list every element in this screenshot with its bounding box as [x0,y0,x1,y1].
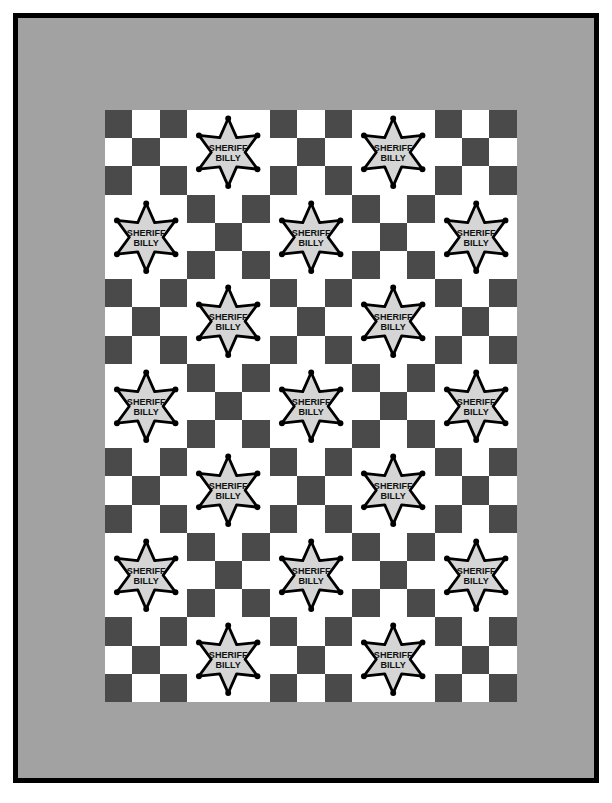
badge-point-dot-2 [172,217,178,223]
checker-patch-1-2 [325,307,352,335]
star-block: SHERIFFBILLY [105,533,187,618]
badge-point-dot-1 [390,454,396,460]
checker-patch-1-2 [407,561,434,589]
checker-block [352,364,434,449]
checker-patch-2-1 [380,589,407,617]
checker-patch-1-0 [435,307,462,335]
star-block: SHERIFFBILLY [187,110,269,195]
badge-text-line1: SHERIFF [127,396,166,406]
badge-point-dot-5 [361,674,367,680]
checker-patch-0-0 [352,195,379,223]
sheriff-badge-icon: SHERIFFBILLY [352,448,434,533]
checker-patch-0-0 [187,364,214,392]
checker-patch-0-2 [489,279,516,307]
badge-point-dot-4 [473,268,479,274]
checker-patch-0-0 [187,533,214,561]
badge-point-dot-3 [502,251,508,257]
sheriff-badge-icon: SHERIFFBILLY [435,195,517,280]
badge-point-dot-6 [196,302,202,308]
checker-patch-1-2 [160,646,187,674]
corner-block-top-right [512,18,594,100]
checker-block [435,110,517,195]
checker-patch-0-2 [325,448,352,476]
checker-patch-2-2 [242,420,269,448]
badge-point-dot-4 [473,437,479,443]
checker-patch-2-0 [435,336,462,364]
badge-text-line2: BILLY [381,491,406,501]
badge-point-dot-2 [337,386,343,392]
badge-point-dot-6 [114,386,120,392]
checker-patch-2-1 [215,251,242,279]
checker-patch-1-1 [297,138,324,166]
badge-point-dot-3 [420,166,426,172]
checker-patch-0-2 [160,448,187,476]
checker-patch-1-1 [380,561,407,589]
checker-patch-1-0 [270,307,297,335]
checker-patch-0-1 [297,617,324,645]
badge-point-dot-3 [420,504,426,510]
checker-patch-2-1 [462,674,489,702]
badge-text-line2: BILLY [216,322,241,332]
checker-patch-2-1 [215,589,242,617]
badge-point-dot-4 [143,606,149,612]
badge-point-dot-6 [279,555,285,561]
checker-patch-0-1 [215,195,242,223]
badge-point-dot-5 [444,420,450,426]
badge-point-dot-5 [444,251,450,257]
checker-patch-0-2 [489,110,516,138]
badge-text-line1: SHERIFF [209,650,248,660]
badge-text-line1: SHERIFF [374,143,413,153]
checker-patch-1-0 [435,476,462,504]
sheriff-badge-icon: SHERIFFBILLY [435,533,517,618]
badge-point-dot-2 [502,386,508,392]
badge-point-dot-6 [444,386,450,392]
checker-patch-1-0 [435,138,462,166]
badge-point-dot-5 [361,335,367,341]
checker-patch-2-0 [435,505,462,533]
checker-patch-0-2 [242,364,269,392]
sheriff-badge-icon: SHERIFFBILLY [187,448,269,533]
checker-patch-2-2 [325,336,352,364]
badge-point-dot-5 [114,251,120,257]
checker-patch-1-0 [270,476,297,504]
badge-point-dot-1 [473,369,479,375]
checker-patch-0-2 [325,279,352,307]
checker-patch-0-2 [160,617,187,645]
star-block: SHERIFFBILLY [270,364,352,449]
badge-point-dot-3 [172,251,178,257]
badge-text-line2: BILLY [463,575,488,585]
corner-block-bottom-left [18,696,100,778]
badge-point-dot-5 [196,335,202,341]
star-block: SHERIFFBILLY [352,448,434,533]
badge-point-dot-6 [196,132,202,138]
star-block: SHERIFFBILLY [435,195,517,280]
checker-patch-2-0 [105,166,132,194]
checker-patch-1-1 [297,476,324,504]
checker-patch-0-1 [132,617,159,645]
badge-point-dot-6 [361,132,367,138]
sheriff-badge-icon: SHERIFFBILLY [270,195,352,280]
badge-text-line1: SHERIFF [456,227,495,237]
corner-block-top-left [18,18,100,100]
checker-patch-1-1 [132,138,159,166]
checker-patch-0-1 [132,279,159,307]
checker-patch-2-0 [352,251,379,279]
checker-patch-0-1 [380,533,407,561]
checker-patch-1-1 [215,561,242,589]
checker-patch-2-2 [489,505,516,533]
checker-patch-1-0 [270,138,297,166]
checker-patch-0-1 [297,110,324,138]
checker-block [270,617,352,702]
checker-patch-0-1 [462,448,489,476]
badge-text-line2: BILLY [298,237,323,247]
badge-point-dot-1 [143,538,149,544]
badge-point-dot-4 [390,690,396,696]
badge-point-dot-4 [143,268,149,274]
checker-patch-2-2 [489,674,516,702]
badge-text-line2: BILLY [134,575,159,585]
badge-text-line1: SHERIFF [374,650,413,660]
checker-patch-2-0 [105,336,132,364]
star-block: SHERIFFBILLY [352,617,434,702]
checker-patch-1-0 [187,223,214,251]
checker-patch-2-2 [407,420,434,448]
